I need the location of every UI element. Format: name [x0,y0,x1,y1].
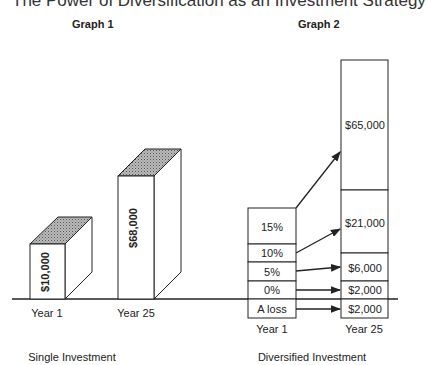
graph1-bar-year25-value: $68,000 [127,208,139,248]
graph1-bar-year1-value: $10,000 [39,252,51,292]
g2-y1-seg-2: 5% [264,266,280,278]
g2-y25-seg-3: $2,000 [348,284,382,296]
graph2-caption: Diversified Investment [258,351,366,363]
graph1-label-year25: Year 25 [117,307,155,319]
growth-arrows [296,152,340,309]
graph1-label-year1: Year 1 [31,307,62,319]
g2-y1-seg-4: A loss [257,303,287,315]
g2-y1-seg-1: 10% [261,247,283,259]
g2-y1-seg-3: 0% [264,284,280,296]
g2-label-year1: Year 1 [256,323,287,335]
g2-y25-seg-2: $6,000 [348,262,382,274]
graph2-year25-stack [341,60,388,318]
g2-y25-seg-1: $21,000 [345,217,385,229]
g2-y25-seg-0: $65,000 [345,119,385,131]
g2-label-year25: Year 25 [345,323,383,335]
g2-y1-seg-0: 15% [261,221,283,233]
graph1-caption: Single Investment [28,351,115,363]
g2-y25-seg-4: $2,000 [348,303,382,315]
